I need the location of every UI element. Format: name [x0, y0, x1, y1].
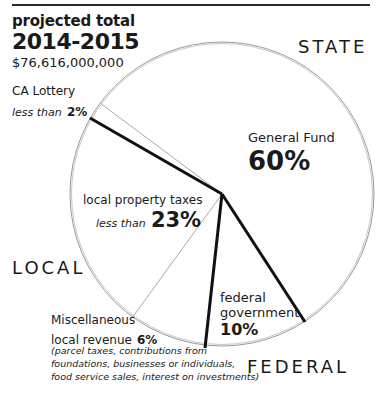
property-taxes-qualifier: less than [96, 217, 146, 230]
general-fund-value: 60% [248, 146, 310, 176]
state-local-boundary [90, 118, 222, 194]
misc-local-note-line1: (parcel taxes, contributions from [51, 345, 207, 356]
ca-lottery-value: 2% [67, 105, 87, 119]
misc-local-label-line1: Miscellaneous [51, 313, 135, 327]
federal-gov-label-line2: government [220, 305, 299, 320]
region-label-local: LOCAL [12, 257, 85, 278]
misc-local-note-line3: food service sales, interest on investme… [51, 371, 259, 382]
ca-lottery-label: CA Lottery [12, 84, 75, 98]
ca-lottery-qualifier: less than [12, 106, 62, 119]
property-taxes-label: local property taxes [83, 193, 202, 207]
region-label-state: STATE [298, 36, 367, 57]
chart-total: $76,616,000,000 [12, 55, 124, 70]
chart-subtitle: projected total [12, 12, 135, 30]
region-label-federal: FEDERAL [247, 356, 349, 377]
ca-lottery-separator [100, 103, 222, 194]
property-taxes-value: 23% [151, 208, 201, 232]
misc-local-note-line2: foundations, businesses or individuals, [51, 358, 235, 369]
general-fund-label: General Fund [248, 130, 335, 145]
chart-year: 2014-2015 [12, 29, 139, 54]
property-taxes-value-line: less than 23% [96, 208, 201, 232]
federal-gov-value: 10% [220, 320, 258, 339]
federal-gov-label-line1: federal [220, 290, 266, 305]
ca-lottery-value-line: less than 2% [12, 101, 87, 120]
